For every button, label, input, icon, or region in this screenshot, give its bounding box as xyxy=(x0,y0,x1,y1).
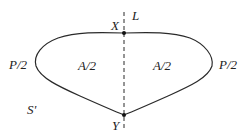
label-left-perimeter: P/2 xyxy=(8,57,28,72)
label-left-area: A/2 xyxy=(77,58,97,73)
label-right-perimeter: P/2 xyxy=(218,57,238,72)
label-l: L xyxy=(131,8,139,23)
label-y: Y xyxy=(112,118,121,133)
diagram-canvas: L X Y P/2 P/2 A/2 A/2 S' xyxy=(0,0,244,137)
label-region-s: S' xyxy=(27,102,37,117)
closed-curve xyxy=(35,33,212,115)
point-x xyxy=(122,31,126,35)
point-y xyxy=(122,113,126,117)
label-x: X xyxy=(110,18,120,33)
label-right-area: A/2 xyxy=(152,58,172,73)
